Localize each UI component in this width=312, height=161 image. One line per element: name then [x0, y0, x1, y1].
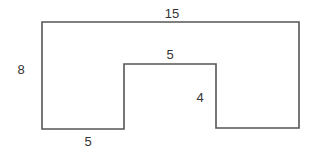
diagram-canvas: 15 8 5 4 5 — [0, 0, 312, 161]
shape-diagram: 15 8 5 4 5 — [0, 0, 312, 161]
label-top-width: 15 — [165, 6, 179, 21]
label-left-height: 8 — [17, 62, 24, 77]
label-notch-width: 5 — [166, 47, 173, 62]
u-shape-outline — [42, 22, 299, 129]
label-notch-height: 4 — [196, 90, 203, 105]
label-bottom-left-width: 5 — [84, 134, 91, 149]
